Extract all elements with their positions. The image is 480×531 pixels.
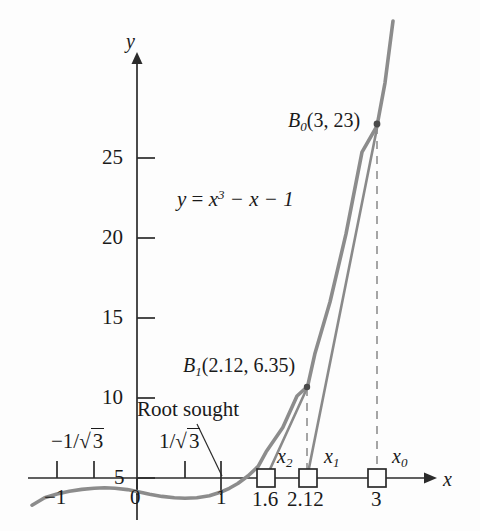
equation-rest: − x − 1 [230,187,294,211]
y-axis-label: y [126,31,135,51]
square-marker-x2[interactable] [257,469,275,487]
x0-name: x [392,445,401,467]
radical-icon: √3 [79,431,104,452]
point-marker-b0 [374,121,381,128]
root-sought-leader-line [197,424,222,476]
annotation-root-sought: Root sought [137,399,239,420]
y-tick-marks [137,158,155,478]
equation-equals: = [192,187,204,211]
x-axis-label: x [443,469,452,489]
iterate-value-x0: 3 [371,489,382,510]
one-over: 1/ [63,429,79,453]
minus-sign: − [51,429,63,453]
equation-base: x [209,187,218,211]
x-tick-label-0: 0 [130,487,141,508]
curve-equation-label: y = x3 − x − 1 [177,188,294,210]
square-marker-x0[interactable] [368,469,386,487]
b1-name: B [183,354,195,376]
x-tick-label-minus-one-over-root3: −1/√3 [51,431,104,452]
iterate-value-x2: 1.6 [252,489,278,510]
x1-name: x [324,445,333,467]
radicand-right: 3 [187,428,201,453]
x1-subscript: 1 [333,455,340,470]
iterate-label-x2: x2 [277,446,292,469]
y-tick-label-5: 5 [114,467,125,488]
tangent-line-at-b0 [307,123,378,478]
y-tick-label-20: 20 [102,227,123,248]
point-marker-b1 [304,384,310,390]
y-axis-arrowhead [132,52,143,64]
one-over-2: 1/ [159,429,175,453]
square-marker-x1[interactable] [299,469,317,487]
equation-exponent: 3 [218,187,225,202]
iterate-value-x1: 2.12 [287,489,324,510]
x-tick-label-one-over-root3: 1/√3 [159,431,200,452]
iterate-label-x1: x1 [324,446,339,469]
radical-icon-2: √3 [175,431,200,452]
x-tick-label-minus1: −1 [44,487,66,508]
equation-lhs: y [177,187,186,211]
newton-method-figure: y x 25 20 15 10 5 −1 0 1 −1/√3 1/√3 y = … [0,0,480,531]
y-tick-label-15: 15 [102,307,123,328]
x0-subscript: 0 [401,455,408,470]
y-tick-label-25: 25 [102,147,123,168]
annotation-b1: B1(2.12, 6.35) [183,355,295,378]
iterate-label-x0: x0 [392,446,407,469]
y-tick-label-10: 10 [102,387,123,408]
x2-subscript: 2 [286,455,293,470]
b0-name: B [288,109,300,131]
radicand-left: 3 [91,428,105,453]
x-tick-label-1: 1 [216,487,227,508]
x2-name: x [277,445,286,467]
b1-coords: (2.12, 6.35) [202,354,295,376]
annotation-b0: B0(3, 23) [288,110,360,133]
b0-coords: (3, 23) [307,109,360,131]
x-axis-arrowhead [424,473,437,484]
